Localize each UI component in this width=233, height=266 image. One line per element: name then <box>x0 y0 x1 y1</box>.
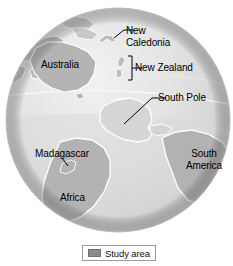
map-label-new-caledonia-line1: New <box>126 25 146 36</box>
legend-label-study-area: Study area <box>105 248 150 259</box>
map-label-south-america: South America <box>176 148 232 171</box>
globe-map-figure: Australia New Caledonia New Zealand Sout… <box>0 0 233 266</box>
legend-swatch-study-area <box>88 249 101 257</box>
map-label-new-caledonia-line2: Caledonia <box>126 37 170 48</box>
map-label-madagascar: Madagascar <box>35 148 89 160</box>
map-label-south-america-line1: South <box>191 148 217 159</box>
map-label-africa: Africa <box>60 192 85 204</box>
globe-rim-shading <box>6 8 230 232</box>
map-label-australia: Australia <box>41 59 79 71</box>
globe-contents <box>2 8 230 232</box>
map-label-south-america-line2: America <box>186 160 222 171</box>
map-label-new-zealand: New Zealand <box>135 62 193 74</box>
legend-box: Study area <box>82 245 156 261</box>
map-label-new-caledonia: New Caledonia <box>126 25 188 48</box>
globe-illustration <box>0 0 233 240</box>
map-label-south-pole: South Pole <box>158 92 206 104</box>
